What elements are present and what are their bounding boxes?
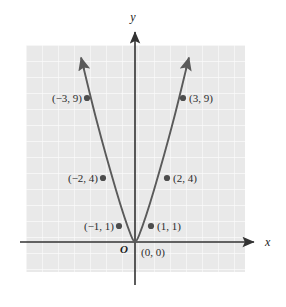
point-label-neg2: (−2, 4) <box>68 172 98 185</box>
point-label-pos2: (2, 4) <box>173 172 197 185</box>
point-label-pos1: (1, 1) <box>157 220 181 233</box>
data-point-pos3 <box>180 95 186 101</box>
x-axis-label: x <box>264 235 271 249</box>
point-label-neg1: (−1, 1) <box>84 220 114 233</box>
data-point-neg2 <box>100 175 106 181</box>
data-point-pos1 <box>148 223 154 229</box>
data-point-neg3 <box>84 95 90 101</box>
origin-label: O <box>120 243 128 255</box>
data-point-pos2 <box>164 175 170 181</box>
point-label-pos3: (3, 9) <box>189 92 213 105</box>
y-axis-label: y <box>129 10 136 24</box>
parabola-figure: x y O (−3, 9) (−2, 4) (−1, 1) (0, 0) (1,… <box>0 0 286 307</box>
data-point-neg1 <box>116 223 122 229</box>
point-label-zero: (0, 0) <box>141 246 165 259</box>
point-label-neg3: (−3, 9) <box>52 92 82 105</box>
